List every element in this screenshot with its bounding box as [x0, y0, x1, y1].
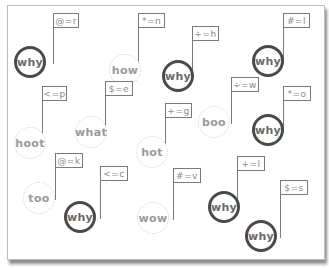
word-circle: what: [75, 116, 107, 148]
flag-label: ÷=w: [231, 77, 259, 92]
flag-label: +=l: [237, 156, 265, 171]
word-circle: why: [252, 45, 284, 77]
word-circle: why: [14, 46, 46, 78]
flag-label: #=l: [283, 13, 310, 28]
flag-label: *=o: [283, 86, 311, 101]
flag-label: @=r: [53, 13, 79, 28]
flag-label: $=e: [105, 81, 133, 96]
word-circle: why: [208, 191, 240, 223]
word-circle: wow: [137, 202, 169, 234]
word-circle: hoot: [14, 127, 46, 159]
flag-label: ÷=h: [192, 26, 219, 41]
flag-label: <=c: [100, 166, 128, 181]
word-circle: hot: [136, 136, 168, 168]
flag-label: $=s: [280, 180, 308, 195]
word-circle: why: [252, 114, 284, 146]
flag-label: <=p: [42, 86, 67, 101]
flag-label: #=v: [173, 168, 201, 183]
flag-label: *=n: [138, 13, 165, 28]
word-circle: boo: [198, 106, 230, 138]
flag-label: +=g: [165, 103, 192, 118]
word-circle: why: [245, 220, 277, 252]
word-circle: why: [162, 60, 194, 92]
flag-label: @=k: [55, 153, 83, 168]
word-circle: too: [23, 182, 55, 214]
word-circle: why: [64, 201, 96, 233]
